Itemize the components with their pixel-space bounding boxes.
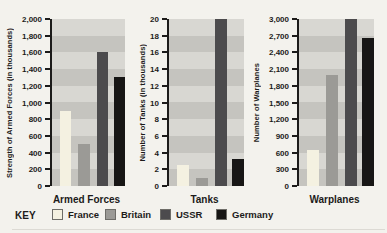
- legend-label: France: [68, 209, 99, 220]
- legend-swatch-france: [52, 209, 63, 220]
- bar-ussr: [215, 19, 227, 186]
- y-tick-label: 1,200: [22, 81, 42, 90]
- chart-panel-armed-forces: Strength of Armed Forces (in thousands)2…: [3, 0, 125, 233]
- y-tick-label: 10: [150, 98, 159, 107]
- bar-france: [307, 150, 319, 186]
- y-tick-label: 1,400: [22, 65, 42, 74]
- y-axis-title-text: Number of Tanks (in thousands): [138, 44, 147, 161]
- y-tick-mark: [292, 51, 297, 53]
- y-tick-mark: [292, 85, 297, 87]
- y-tick-mark: [292, 35, 297, 37]
- y-tick-mark: [45, 135, 50, 137]
- y-tick-mark: [162, 185, 167, 187]
- y-tick-mark: [292, 168, 297, 170]
- bar-germany: [114, 77, 125, 186]
- chart-key: KEY FranceBritainUSSRGermany: [0, 208, 387, 224]
- y-tick-label: 0: [155, 182, 159, 191]
- y-tick-mark: [292, 185, 297, 187]
- y-tick-label: 0: [38, 182, 42, 191]
- bar-germany: [362, 38, 374, 186]
- y-tick-mark: [292, 152, 297, 154]
- y-tick-label: 4: [155, 148, 159, 157]
- y-tick-label: 18: [150, 31, 159, 40]
- y-tick-mark: [162, 118, 167, 120]
- y-tick-mark: [45, 18, 50, 20]
- y-tick-mark: [45, 35, 50, 37]
- bar-britain: [196, 178, 208, 186]
- legend-item-france: France: [52, 209, 99, 220]
- y-tick-label: 14: [150, 65, 159, 74]
- y-tick-mark: [45, 51, 50, 53]
- plot-area-armed-forces: [50, 19, 125, 186]
- y-tick-mark: [45, 102, 50, 104]
- bar-france: [60, 111, 71, 186]
- y-tick-mark: [292, 102, 297, 104]
- legend-swatch-germany: [216, 209, 227, 220]
- y-tick-label: 2,100: [269, 65, 289, 74]
- y-tick-label: 1,500: [269, 98, 289, 107]
- y-tick-mark: [162, 18, 167, 20]
- y-tick-label: 1,800: [22, 31, 42, 40]
- y-tick-mark: [292, 118, 297, 120]
- y-tick-label: 1,000: [22, 98, 42, 107]
- y-tick-label: 20: [150, 15, 159, 24]
- chart-panel-warplanes: Number of Warplanes3,0002,7002,4002,1001…: [250, 0, 374, 233]
- y-tick-label: 0: [285, 182, 289, 191]
- y-tick-label: 3,000: [269, 15, 289, 24]
- y-tick-mark: [45, 185, 50, 187]
- category-label-tanks: Tanks: [167, 194, 242, 207]
- category-label-armed-forces: Armed Forces: [50, 194, 123, 207]
- y-axis-title: Strength of Armed Forces (in thousands): [3, 19, 16, 186]
- y-tick-label: 2,700: [269, 31, 289, 40]
- y-tick-label: 6: [155, 131, 159, 140]
- y-axis-title: Number of Tanks (in thousands): [136, 19, 149, 186]
- bar-britain: [78, 144, 89, 186]
- y-tick-label: 12: [150, 81, 159, 90]
- y-tick-mark: [162, 168, 167, 170]
- bar-germany: [232, 159, 244, 186]
- y-tick-mark: [45, 152, 50, 154]
- y-tick-mark: [162, 85, 167, 87]
- y-tick-label: 800: [29, 115, 42, 124]
- y-tick-label: 2: [155, 165, 159, 174]
- legend-swatch-britain: [105, 209, 116, 220]
- y-tick-label: 1,200: [269, 115, 289, 124]
- y-tick-label: 600: [276, 148, 289, 157]
- legend-item-ussr: USSR: [160, 209, 202, 220]
- y-tick-label: 600: [29, 131, 42, 140]
- y-tick-mark: [162, 135, 167, 137]
- y-tick-label: 16: [150, 48, 159, 57]
- y-tick-mark: [292, 135, 297, 137]
- y-axis-title: Number of Warplanes: [250, 19, 263, 186]
- y-tick-mark: [162, 51, 167, 53]
- y-tick-mark: [292, 68, 297, 70]
- y-tick-mark: [162, 152, 167, 154]
- bar-ussr: [97, 52, 108, 186]
- legend-label: Britain: [121, 209, 151, 220]
- y-tick-label: 2,400: [269, 48, 289, 57]
- key-label: KEY: [15, 210, 36, 221]
- y-tick-label: 200: [29, 165, 42, 174]
- y-tick-label: 400: [29, 148, 42, 157]
- y-tick-mark: [292, 18, 297, 20]
- legend-label: Germany: [232, 209, 273, 220]
- y-axis-title-text: Strength of Armed Forces (in thousands): [5, 28, 14, 178]
- y-tick-mark: [45, 118, 50, 120]
- plot-area-tanks: [167, 19, 244, 186]
- category-label-warplanes: Warplanes: [297, 194, 372, 207]
- y-axis-title-text: Number of Warplanes: [252, 63, 261, 142]
- y-tick-label: 1,800: [269, 81, 289, 90]
- y-tick-mark: [162, 102, 167, 104]
- bar-france: [177, 165, 189, 186]
- bar-britain: [326, 75, 338, 186]
- y-tick-label: 8: [155, 115, 159, 124]
- y-tick-mark: [45, 85, 50, 87]
- legend-label: USSR: [176, 209, 202, 220]
- y-tick-mark: [162, 68, 167, 70]
- page-rule-divider: [12, 229, 385, 230]
- bar-ussr: [345, 19, 357, 186]
- military-strength-comparison-figure: Strength of Armed Forces (in thousands)2…: [0, 0, 387, 233]
- y-tick-mark: [45, 68, 50, 70]
- y-tick-label: 1,600: [22, 48, 42, 57]
- legend-swatch-ussr: [160, 209, 171, 220]
